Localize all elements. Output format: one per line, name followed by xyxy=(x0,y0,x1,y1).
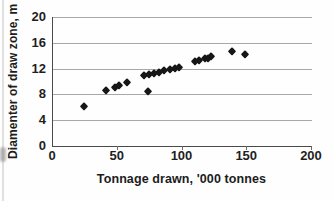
gridline-y-8 xyxy=(53,94,312,95)
x-tick-mark-200 xyxy=(311,146,312,150)
gridline-y-12 xyxy=(53,69,312,70)
plot-area xyxy=(52,17,312,147)
x-tick-label-100: 100 xyxy=(162,149,202,163)
y-tick-label-12: 12 xyxy=(12,62,46,76)
x-tick-label-200: 200 xyxy=(291,149,331,163)
data-point xyxy=(80,102,88,110)
gridline-y-16 xyxy=(53,43,312,44)
y-tick-label-8: 8 xyxy=(12,87,46,101)
x-tick-mark-150 xyxy=(246,146,247,150)
scatter-chart: Diamenter of draw zone, m 04812162005010… xyxy=(0,0,334,201)
y-tick-label-4: 4 xyxy=(12,113,46,127)
x-tick-mark-50 xyxy=(117,146,118,150)
scan-artifact-left-streak xyxy=(2,0,4,201)
data-point xyxy=(123,78,131,86)
data-point xyxy=(228,47,236,55)
x-tick-mark-100 xyxy=(182,146,183,150)
x-tick-label-50: 50 xyxy=(97,149,137,163)
x-tick-label-0: 0 xyxy=(32,149,72,163)
x-axis-title: Tonnage drawn, '000 tonnes xyxy=(52,172,311,186)
gridline-y-20 xyxy=(53,17,312,18)
y-tick-label-20: 20 xyxy=(12,10,46,24)
y-axis-title: Diamenter of draw zone, m xyxy=(6,7,20,159)
y-tick-label-16: 16 xyxy=(12,36,46,50)
data-point xyxy=(102,86,110,94)
gridline-y-4 xyxy=(53,120,312,121)
data-point xyxy=(241,51,249,59)
x-tick-label-150: 150 xyxy=(226,149,266,163)
